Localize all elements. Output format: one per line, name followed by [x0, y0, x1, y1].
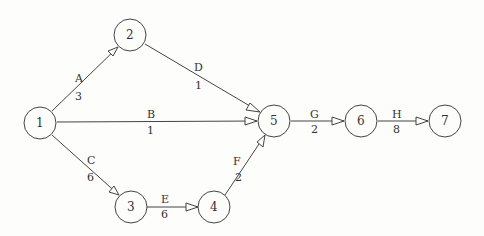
- edge-a: A 3: [52, 47, 118, 111]
- edge-activity-label: A: [74, 72, 84, 85]
- arrowhead-icon: [186, 203, 198, 211]
- node-7: 7: [429, 105, 461, 137]
- edge-activity-label: G: [310, 108, 319, 121]
- node-6: 6: [345, 105, 377, 137]
- edge-g: G 2: [291, 108, 344, 136]
- node-4: 4: [198, 191, 230, 223]
- edge-duration-label: 3: [75, 90, 82, 103]
- edge-activity-label: F: [233, 155, 241, 168]
- edge-f: F 2: [225, 135, 265, 195]
- edge-d: D 1: [145, 44, 260, 112]
- arrowhead-icon: [245, 117, 257, 125]
- node-1: 1: [24, 107, 56, 139]
- edge-c: C 6: [52, 135, 119, 195]
- node-label: 2: [126, 28, 134, 42]
- node-label: 6: [357, 114, 365, 128]
- node-5: 5: [258, 105, 290, 137]
- edge-activity-label: C: [87, 154, 95, 167]
- node-label: 1: [36, 116, 44, 130]
- edge-b: B 1: [57, 108, 257, 137]
- edge-activity-label: H: [392, 108, 402, 121]
- edge-duration-label: 6: [87, 171, 94, 184]
- edge-duration-label: 8: [393, 123, 400, 136]
- edge-duration-label: 2: [311, 123, 318, 136]
- arrowhead-icon: [416, 117, 428, 125]
- node-label: 4: [210, 200, 218, 214]
- node-label: 5: [270, 114, 278, 128]
- edge-duration-label: 2: [235, 171, 242, 184]
- node-3: 3: [115, 191, 147, 223]
- edge-h: H 8: [378, 108, 428, 136]
- node-label: 3: [127, 200, 135, 214]
- edge-activity-label: E: [161, 193, 169, 206]
- edge-duration-label: 6: [161, 208, 168, 221]
- edge-activity-label: B: [147, 108, 155, 121]
- arrowhead-icon: [246, 103, 260, 112]
- edge-activity-label: D: [194, 61, 203, 74]
- node-label: 7: [441, 114, 449, 128]
- network-diagram: A 3 B 1 C 6 D 1 E 6 F 2 G 2: [0, 0, 484, 236]
- arrowhead-icon: [332, 117, 344, 125]
- edge-e: E 6: [147, 193, 198, 221]
- edge-duration-label: 1: [147, 124, 154, 137]
- edge-duration-label: 1: [195, 79, 202, 92]
- node-2: 2: [114, 19, 146, 51]
